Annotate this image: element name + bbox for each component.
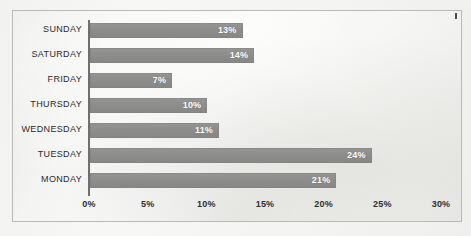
- x-tick-label-0pct: 0%: [82, 199, 95, 209]
- bar-value-monday: 21%: [312, 175, 331, 185]
- bar-track-saturday: 14%: [90, 48, 465, 63]
- bar-monday[interactable]: 21%: [90, 173, 336, 188]
- bar-track-monday: 21%: [90, 173, 465, 188]
- category-label-friday: FRIDAY: [0, 74, 82, 84]
- category-label-tuesday: TUESDAY: [0, 149, 82, 159]
- x-tick-label-30pct: 30%: [432, 199, 451, 209]
- bar-row-tuesday: TUESDAY 24%: [0, 146, 471, 171]
- bar-chart-figure: SUNDAY 13% SATURDAY 14% FRIDAY: [0, 0, 471, 236]
- category-label-thursday: THURSDAY: [0, 99, 82, 109]
- x-tick-label-25pct: 25%: [373, 199, 392, 209]
- bar-value-sunday: 13%: [218, 25, 237, 35]
- bar-sunday[interactable]: 13%: [90, 23, 243, 38]
- bar-value-saturday: 14%: [230, 50, 249, 60]
- bar-value-wednesday: 11%: [195, 125, 213, 135]
- bar-thursday[interactable]: 10%: [90, 98, 207, 113]
- category-label-wednesday: WEDNESDAY: [0, 124, 82, 134]
- bar-wednesday[interactable]: 11%: [90, 123, 219, 138]
- bar-row-friday: FRIDAY 7%: [0, 71, 471, 96]
- x-tick-label-5pct: 5%: [141, 199, 154, 209]
- bar-row-monday: MONDAY 21%: [0, 171, 471, 196]
- scan-artifact-mark: [455, 13, 457, 19]
- bar-value-friday: 7%: [153, 75, 166, 85]
- category-label-monday: MONDAY: [0, 174, 82, 184]
- bar-track-sunday: 13%: [90, 23, 465, 38]
- x-tick-label-20pct: 20%: [314, 199, 333, 209]
- bar-rows: SUNDAY 13% SATURDAY 14% FRIDAY: [0, 21, 471, 196]
- x-tick-label-15pct: 15%: [256, 199, 275, 209]
- bar-row-thursday: THURSDAY 10%: [0, 96, 471, 121]
- bar-value-tuesday: 24%: [347, 150, 366, 160]
- x-tick-label-10pct: 10%: [197, 199, 216, 209]
- bar-track-thursday: 10%: [90, 98, 465, 113]
- bar-row-wednesday: WEDNESDAY 11%: [0, 121, 471, 146]
- category-label-sunday: SUNDAY: [0, 24, 82, 34]
- plot-area: SUNDAY 13% SATURDAY 14% FRIDAY: [0, 0, 471, 236]
- bar-saturday[interactable]: 14%: [90, 48, 254, 63]
- value-axis-ticks: 0%5%10%15%20%25%30%: [0, 199, 471, 215]
- bar-track-wednesday: 11%: [90, 123, 465, 138]
- bar-tuesday[interactable]: 24%: [90, 148, 372, 163]
- bar-friday[interactable]: 7%: [90, 73, 172, 88]
- bar-row-sunday: SUNDAY 13%: [0, 21, 471, 46]
- bar-row-saturday: SATURDAY 14%: [0, 46, 471, 71]
- bar-track-tuesday: 24%: [90, 148, 465, 163]
- bar-track-friday: 7%: [90, 73, 465, 88]
- bar-value-thursday: 10%: [183, 100, 202, 110]
- category-label-saturday: SATURDAY: [0, 49, 82, 59]
